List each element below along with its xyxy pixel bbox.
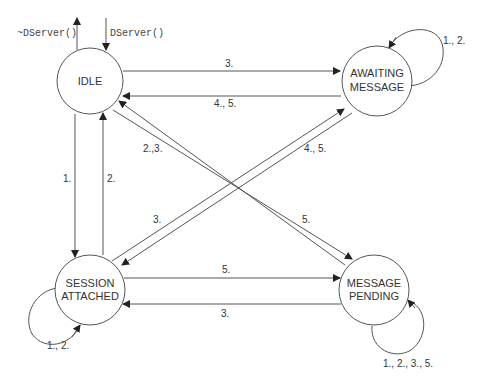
state-session-label-1: SESSION bbox=[66, 277, 115, 289]
label-session-to-awaiting: 4., 5. bbox=[304, 143, 326, 154]
loop-session-arrow bbox=[72, 325, 80, 337]
destructor-label: ~DServer() bbox=[17, 28, 77, 39]
state-session-label-2: ATTACHED bbox=[61, 290, 119, 302]
state-pending-label-1: MESSAGE bbox=[347, 277, 401, 289]
state-message-pending: MESSAGE PENDING bbox=[339, 255, 409, 325]
label-session-loop: 1., 2. bbox=[47, 340, 69, 351]
label-awaiting-loop: 1., 2. bbox=[443, 35, 465, 46]
arrow-pending-to-idle bbox=[119, 101, 345, 265]
state-awaiting-label-1: AWAITING bbox=[350, 67, 404, 79]
label-idle-to-session: 1. bbox=[63, 173, 71, 184]
arrow-awaiting-to-session bbox=[122, 113, 352, 265]
arrow-session-to-awaiting bbox=[112, 109, 344, 261]
label-awaiting-to-idle: 4., 5. bbox=[214, 98, 236, 109]
label-idle-to-awaiting: 3. bbox=[225, 58, 233, 69]
label-session-to-pending: 5. bbox=[222, 264, 230, 275]
state-pending-label-2: PENDING bbox=[349, 290, 399, 302]
state-awaiting-message: AWAITING MESSAGE bbox=[342, 46, 412, 116]
label-pending-to-session: 3. bbox=[221, 308, 229, 319]
loop-awaiting-arrow bbox=[389, 37, 396, 48]
label-awaiting-to-session: 3. bbox=[153, 214, 161, 225]
state-idle-label: IDLE bbox=[78, 75, 102, 87]
state-session-attached: SESSION ATTACHED bbox=[55, 255, 125, 325]
state-diagram: ~DServer() DServer() 3. 4., 5. 1. 2. 2.,… bbox=[0, 0, 481, 384]
state-awaiting-label-2: MESSAGE bbox=[350, 81, 404, 93]
label-pending-to-idle: 2.,3. bbox=[143, 143, 162, 154]
label-session-to-idle: 2. bbox=[107, 173, 115, 184]
constructor-label: DServer() bbox=[110, 28, 164, 39]
label-pending-loop: 1., 2., 3., 5. bbox=[383, 358, 433, 369]
state-idle: IDLE bbox=[57, 48, 123, 114]
label-idle-to-pending: 5. bbox=[302, 214, 310, 225]
